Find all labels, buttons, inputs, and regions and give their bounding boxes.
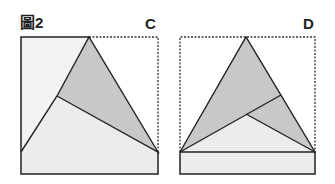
diagram-canvas	[0, 0, 335, 184]
panel-d-bottom-band	[180, 152, 315, 174]
panel-d	[180, 37, 315, 174]
panel-c	[21, 37, 158, 174]
